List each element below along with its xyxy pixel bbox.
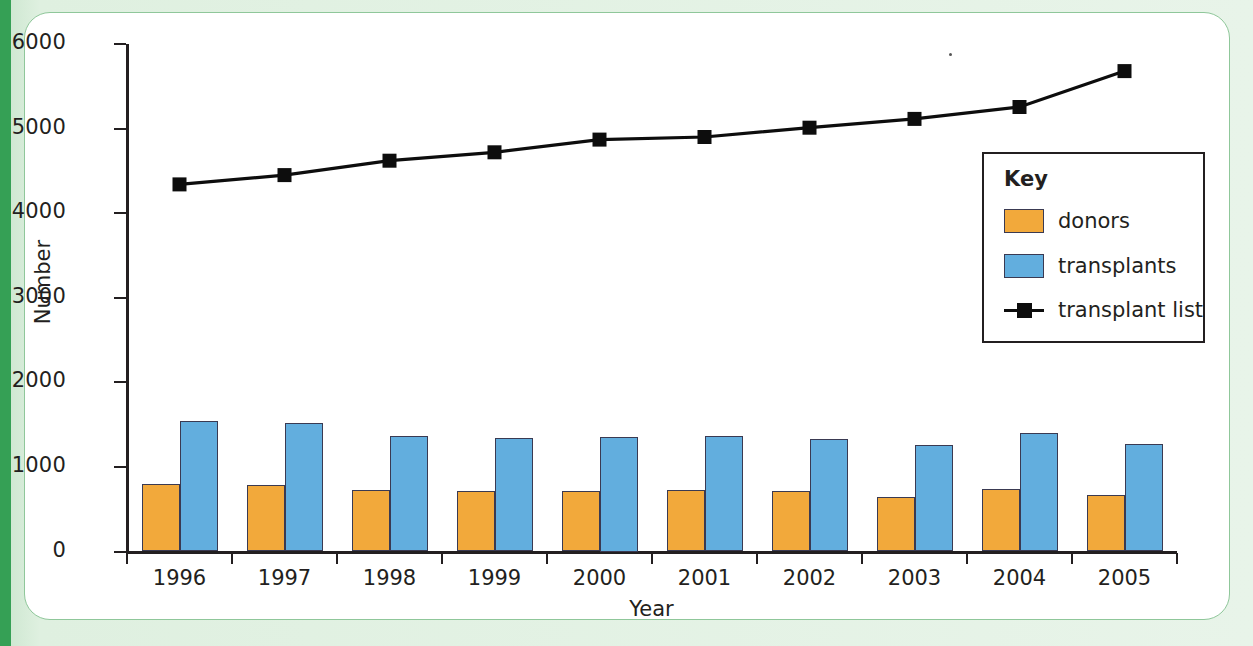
transplant-list-marker-1997 <box>278 168 292 182</box>
legend-item-donors[interactable]: donors <box>1004 206 1130 236</box>
y-axis-tick-label: 1000 <box>12 453 66 477</box>
bar-donors-2005 <box>1087 495 1125 552</box>
x-axis-tick-label: 2003 <box>862 566 967 590</box>
x-axis-tick-label: 2000 <box>547 566 652 590</box>
bar-donors-1996 <box>142 484 180 552</box>
legend-key-box: Key donors transplants transplant list <box>982 152 1205 343</box>
bar-transplants-2002 <box>810 439 848 551</box>
x-axis-tick-label: 1998 <box>337 566 442 590</box>
bar-donors-1998 <box>352 490 390 552</box>
bar-donors-1997 <box>247 485 285 552</box>
bar-transplants-2003 <box>915 445 953 552</box>
y-axis-tick-label: 4000 <box>12 199 66 223</box>
transplant-list-marker-2005 <box>1118 64 1132 78</box>
transplant-list-marker-2001 <box>698 130 712 144</box>
bar-donors-1999 <box>457 491 495 551</box>
y-axis-tick <box>114 381 126 383</box>
bar-transplants-1998 <box>390 436 428 551</box>
transplant-list-marker-2000 <box>593 133 607 147</box>
x-axis-tick-label: 2001 <box>652 566 757 590</box>
legend-square-marker <box>1017 303 1032 318</box>
legend-item-transplants[interactable]: transplants <box>1004 251 1177 281</box>
x-axis-tick-label: 1997 <box>232 566 337 590</box>
bar-transplants-1996 <box>180 421 218 552</box>
bar-transplants-2005 <box>1125 444 1163 551</box>
x-axis-tick <box>231 553 233 564</box>
y-axis-tick <box>114 212 126 214</box>
transplant-list-marker-2002 <box>803 121 817 135</box>
bar-donors-2000 <box>562 491 600 552</box>
bar-donors-2001 <box>667 490 705 551</box>
bar-transplants-1999 <box>495 438 533 552</box>
bar-donors-2004 <box>982 489 1020 551</box>
transplant-list-marker-2003 <box>908 112 922 126</box>
y-axis-tick-label: 3000 <box>12 284 66 308</box>
legend-item-donors-label: donors <box>1058 209 1130 233</box>
chart-page: Number Year 1996199719981999200020012002… <box>0 0 1253 646</box>
x-axis-tick-label: 2002 <box>757 566 862 590</box>
y-axis-tick-label: 2000 <box>12 368 66 392</box>
x-axis-tick <box>126 553 128 564</box>
transplant-list-line-icon <box>1004 298 1044 322</box>
transplant-list-marker-2004 <box>1013 100 1027 114</box>
x-axis-tick <box>1176 553 1178 564</box>
x-axis-tick <box>966 553 968 564</box>
x-axis-tick-label: 2004 <box>967 566 1072 590</box>
y-axis-tick <box>114 43 126 45</box>
x-axis-tick <box>651 553 653 564</box>
y-axis-tick <box>114 551 126 553</box>
x-axis-tick <box>336 553 338 564</box>
legend-item-transplant-list[interactable]: transplant list <box>1004 295 1203 325</box>
donors-swatch-icon <box>1004 209 1044 233</box>
transplant-list-marker-1999 <box>488 145 502 159</box>
transplant-list-marker-1998 <box>383 154 397 168</box>
legend-title: Key <box>1004 167 1048 191</box>
y-axis-tick-label: 6000 <box>12 30 66 54</box>
x-axis-tick <box>861 553 863 564</box>
transplants-swatch-icon <box>1004 254 1044 278</box>
transplant-list-marker-1996 <box>173 177 187 191</box>
legend-item-transplants-label: transplants <box>1058 254 1177 278</box>
x-axis-tick-label: 2005 <box>1072 566 1177 590</box>
y-axis-tick-label: 0 <box>52 538 66 562</box>
y-axis-tick <box>114 297 126 299</box>
bar-transplants-2004 <box>1020 433 1058 552</box>
bar-transplants-2001 <box>705 436 743 552</box>
y-axis-tick <box>114 466 126 468</box>
x-axis-tick <box>441 553 443 564</box>
x-axis-tick-label: 1999 <box>442 566 547 590</box>
bar-transplants-2000 <box>600 437 638 551</box>
legend-item-transplant-list-label: transplant list <box>1058 298 1203 322</box>
x-axis-tick <box>756 553 758 564</box>
bar-donors-2003 <box>877 497 915 552</box>
y-axis-tick <box>114 128 126 130</box>
y-axis-tick-label: 5000 <box>12 115 66 139</box>
x-axis-tick-label: 1996 <box>127 566 232 590</box>
chart-plot-area: Number Year 1996199719981999200020012002… <box>0 0 1253 646</box>
x-axis-tick <box>546 553 548 564</box>
x-axis-tick <box>1071 553 1073 564</box>
bar-transplants-1997 <box>285 423 323 552</box>
bar-donors-2002 <box>772 491 810 551</box>
